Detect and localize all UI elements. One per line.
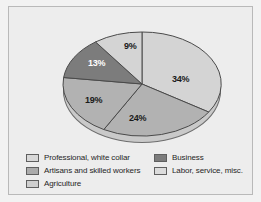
legend-swatch-icon bbox=[154, 154, 167, 162]
legend-swatch-icon bbox=[26, 180, 39, 188]
pie-slice-label-13: 13% bbox=[88, 58, 105, 68]
legend-item-label: Labor, service, misc. bbox=[172, 166, 243, 175]
legend-swatch-icon bbox=[26, 167, 39, 175]
legend-item-label: Business bbox=[172, 153, 204, 162]
legend-column-left: Professional, white collar Artisans and … bbox=[26, 151, 151, 190]
pie-chart-figure: 34% 24% 19% 13% 9% Professional, white c… bbox=[0, 0, 261, 202]
legend-item-professional-white-collar[interactable]: Professional, white collar bbox=[26, 151, 151, 164]
legend-item-artisans-and-skilled-workers[interactable]: Artisans and skilled workers bbox=[26, 164, 151, 177]
chart-legend: Professional, white collar Artisans and … bbox=[26, 151, 252, 199]
legend-item-labor-service-misc[interactable]: Labor, service, misc. bbox=[154, 164, 252, 177]
legend-item-label: Artisans and skilled workers bbox=[44, 166, 140, 175]
pie-slice-label-24: 24% bbox=[129, 113, 146, 123]
pie-slice-label-34: 34% bbox=[172, 74, 189, 84]
legend-item-business[interactable]: Business bbox=[154, 151, 252, 164]
legend-item-label: Professional, white collar bbox=[44, 153, 130, 162]
pie-slice-label-9: 9% bbox=[124, 41, 137, 51]
legend-column-right: Business Labor, service, misc. bbox=[154, 151, 252, 177]
pie-top-face: 34% 24% 19% 13% 9% bbox=[63, 32, 221, 136]
pie-slice-label-19: 19% bbox=[85, 95, 102, 105]
legend-item-label: Agriculture bbox=[44, 179, 81, 188]
legend-item-agriculture[interactable]: Agriculture bbox=[26, 177, 151, 190]
legend-swatch-icon bbox=[26, 154, 39, 162]
pie-chart: 34% 24% 19% 13% 9% bbox=[23, 15, 255, 145]
legend-swatch-icon bbox=[154, 167, 167, 175]
figure-frame: 34% 24% 19% 13% 9% Professional, white c… bbox=[8, 6, 253, 195]
